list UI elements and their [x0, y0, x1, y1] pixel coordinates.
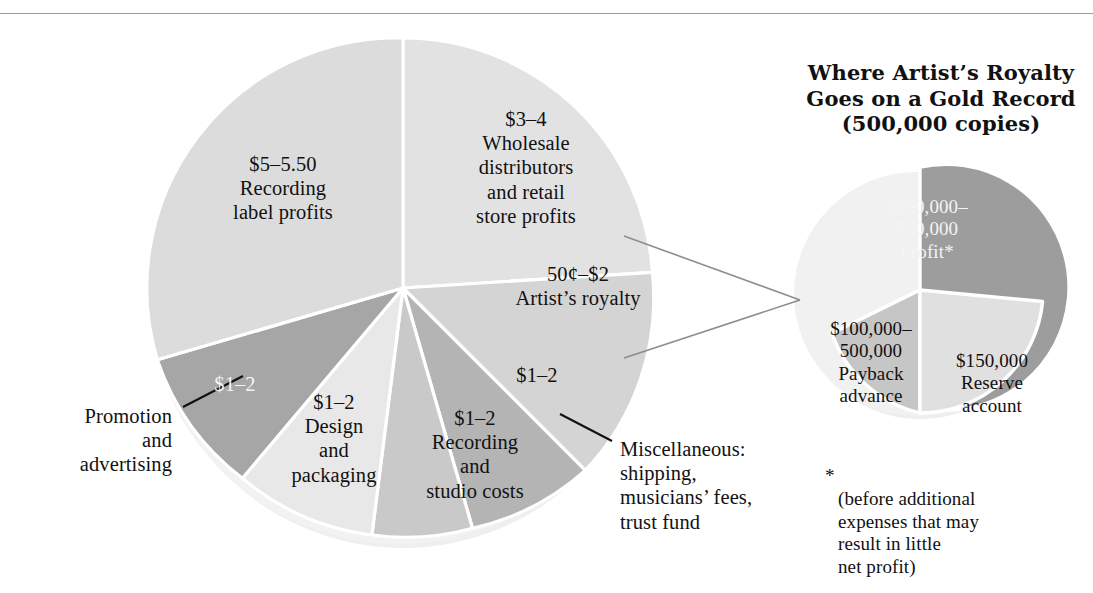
slice-label-design-packaging: $1–2 Design and packaging	[264, 390, 404, 487]
slice-label-miscellaneous-amount: $1–2	[492, 363, 582, 387]
gold-slice-label-payback-advance: $100,000– 500,000 Payback advance	[815, 318, 927, 408]
gold-record-footnote-wrapper: *(before additional expenses that may re…	[838, 465, 1068, 579]
footnote-text: (before additional expenses that may res…	[838, 488, 979, 577]
slice-label-recording-studio: $1–2 Recording and studio costs	[392, 406, 558, 503]
gold-slice-label-profit: $250,000– 550,000 Profit*	[852, 196, 1002, 263]
slice-label-wholesale: $3–4 Wholesale distributors and retail s…	[428, 107, 624, 228]
gold-record-title: Where Artist’s Royalty Goes on a Gold Re…	[795, 60, 1087, 137]
callout-promotion-and-advertising: Promotion and advertising	[2, 404, 172, 477]
callout-miscellaneous: Miscellaneous: shipping, musicians’ fees…	[620, 437, 810, 534]
infographic-page: $3–4 Wholesale distributors and retail s…	[0, 0, 1093, 593]
footnote-asterisk: *	[825, 465, 835, 488]
gold-slice-label-reserve-account: $150,000 Reserve account	[936, 350, 1048, 417]
slice-label-artist-royalty: 50¢–$2 Artist’s royalty	[478, 262, 678, 310]
slice-label-recording-label-profits: $5–5.50 Recording label profits	[168, 152, 398, 225]
